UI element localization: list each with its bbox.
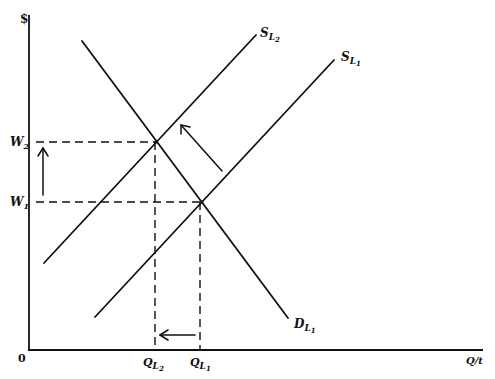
demand-curve-dl1 xyxy=(82,41,288,318)
y-tick-labels: W2 W1 xyxy=(10,135,29,211)
curve-labels: SL2 SL1 DL1 xyxy=(260,26,361,335)
quantity-decrease-arrow-icon xyxy=(160,330,195,340)
axes: $ 0 Q/t xyxy=(18,12,483,366)
supply-curve-sl2 xyxy=(44,35,256,263)
sl1-label: SL1 xyxy=(341,50,361,68)
y-axis-label: $ xyxy=(20,12,28,26)
dl1-label: DL1 xyxy=(293,317,316,335)
w1-label: W1 xyxy=(10,195,29,211)
equilibrium-e1 xyxy=(200,200,203,203)
w2-label: W2 xyxy=(10,135,29,151)
ql1-label: QL1 xyxy=(190,356,211,373)
ql2-label: QL2 xyxy=(143,356,164,373)
sl2-label: SL2 xyxy=(260,26,280,44)
x-axis-label: Q/t xyxy=(466,355,483,366)
wage-increase-arrow-icon xyxy=(38,148,48,195)
supply-shift-arrow-icon xyxy=(181,125,222,171)
curves xyxy=(44,35,334,318)
equilibrium-e2 xyxy=(154,140,157,143)
x-tick-labels: QL2 QL1 xyxy=(143,356,211,373)
arrows xyxy=(38,125,222,340)
supply-curve-sl1 xyxy=(95,60,334,317)
origin-label: 0 xyxy=(18,352,26,365)
labor-market-diagram: $ 0 Q/t SL2 SL1 DL1 W2 W1 xyxy=(0,0,495,379)
